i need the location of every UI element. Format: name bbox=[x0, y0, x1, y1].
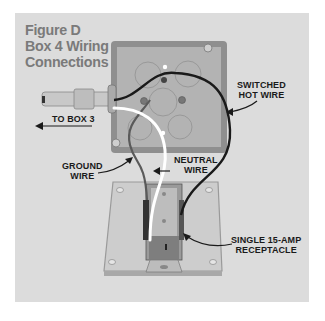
receptacle-label: SINGLE 15-AMP RECEPTACLE bbox=[231, 235, 301, 255]
neutral-wire-label: NEUTRAL WIRE bbox=[174, 155, 218, 175]
figure-title-line-3: Connections bbox=[25, 54, 109, 70]
ground-wire-label: GROUND WIRE bbox=[62, 161, 103, 181]
figure-title: Figure D Box 4 Wiring Connections bbox=[25, 22, 109, 70]
figure-title-line-2: Box 4 Wiring bbox=[25, 38, 109, 54]
switched-hot-wire-label: SWITCHED HOT WIRE bbox=[237, 80, 286, 100]
conduit-connector bbox=[42, 85, 116, 113]
to-box-3-label: TO BOX 3 bbox=[52, 114, 95, 124]
figure-title-line-1: Figure D bbox=[25, 22, 109, 38]
